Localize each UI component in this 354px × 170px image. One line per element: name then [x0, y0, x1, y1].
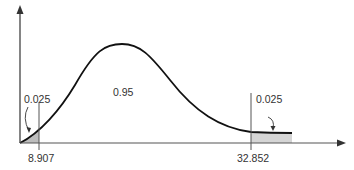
left-critical-value: 8.907 — [28, 152, 54, 164]
left-arrowhead-icon — [27, 127, 32, 133]
right-critical-value: 32.852 — [237, 152, 269, 164]
x-axis-arrow-icon — [337, 140, 346, 147]
right-tail-label: 0.025 — [256, 93, 282, 105]
center-area-label: 0.95 — [113, 86, 134, 98]
left-tail-label: 0.025 — [24, 93, 50, 105]
y-axis-arrow-icon — [17, 5, 24, 14]
right-arrowhead-icon — [271, 126, 276, 131]
chi-square-diagram: 0.025 0.95 0.025 8.907 32.852 — [0, 0, 354, 170]
